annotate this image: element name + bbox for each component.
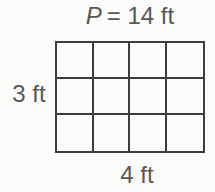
grid-cell: [57, 115, 94, 151]
rectangle-grid: [55, 41, 205, 153]
grid-cell: [130, 115, 167, 151]
figure-canvas: P= 14 ft 3 ft 4 ft: [0, 0, 215, 192]
grid-cell: [130, 79, 167, 115]
grid-cell: [167, 115, 204, 151]
grid-cell: [57, 43, 94, 79]
grid-cell: [167, 43, 204, 79]
perimeter-symbol: P: [86, 2, 102, 29]
grid-cell: [94, 43, 131, 79]
perimeter-label: P= 14 ft: [55, 2, 205, 30]
grid-cell: [94, 79, 131, 115]
perimeter-value: = 14 ft: [107, 2, 174, 29]
grid-cell: [167, 79, 204, 115]
grid-cell: [57, 79, 94, 115]
grid-cell: [130, 43, 167, 79]
height-label: 3 ft: [6, 80, 52, 108]
width-label: 4 ft: [62, 161, 212, 189]
grid-cell: [94, 115, 131, 151]
